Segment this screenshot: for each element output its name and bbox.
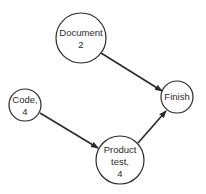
node-document-label-line2: 2 — [78, 39, 83, 50]
activity-network-diagram: Document 2 Code, 4 Finish Product test, … — [0, 0, 206, 194]
node-document-label-line1: Document — [59, 27, 103, 38]
node-document-circle — [56, 13, 106, 63]
edge-product-test-to-finish — [138, 111, 166, 143]
node-code-label-line1: Code, — [12, 94, 37, 105]
edge-code-to-product-test — [40, 113, 98, 148]
node-product-test-label-line1: Product — [104, 144, 137, 155]
node-product-test: Product test, 4 — [96, 136, 144, 184]
node-code-label-line2: 4 — [22, 106, 27, 117]
node-finish: Finish — [161, 81, 193, 113]
edge-document-to-finish — [101, 53, 162, 91]
node-product-test-label-line3: 4 — [117, 168, 122, 179]
node-document: Document 2 — [56, 13, 106, 63]
node-code: Code, 4 — [9, 89, 41, 121]
node-product-test-label-line2: test, — [111, 156, 129, 167]
node-finish-label: Finish — [164, 91, 189, 102]
